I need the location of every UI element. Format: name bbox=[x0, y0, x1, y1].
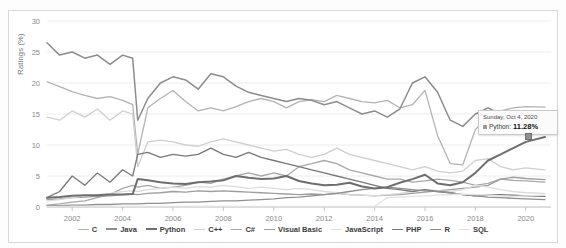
legend-swatch-icon bbox=[392, 229, 403, 230]
legend-swatch-icon bbox=[331, 229, 342, 230]
legend-label: Python bbox=[160, 225, 185, 234]
tooltip-value-row: Python: 11.28% bbox=[483, 122, 553, 131]
chart-screenshot: Ratings (%) 051015202530 200220042006200… bbox=[0, 0, 566, 248]
legend-item-c[interactable]: C bbox=[78, 225, 97, 234]
legend-item-php[interactable]: PHP bbox=[392, 225, 421, 234]
legend-swatch-icon bbox=[146, 228, 157, 230]
legend-item-python[interactable]: Python bbox=[146, 225, 185, 234]
tooltip-series-dot-icon bbox=[483, 125, 487, 129]
svg-text:5: 5 bbox=[36, 172, 40, 181]
legend-item-javascript[interactable]: JavaScript bbox=[331, 225, 383, 234]
svg-text:25: 25 bbox=[32, 48, 40, 57]
svg-text:10: 10 bbox=[32, 141, 40, 150]
chart-legend: CJavaPythonC++C#Visual BasicJavaScriptPH… bbox=[8, 221, 558, 237]
legend-label: C# bbox=[245, 225, 255, 234]
legend-swatch-icon bbox=[430, 229, 441, 230]
svg-text:0: 0 bbox=[36, 203, 40, 212]
legend-swatch-icon bbox=[231, 229, 242, 230]
legend-label: SQL bbox=[473, 225, 488, 234]
legend-label: Visual Basic bbox=[278, 225, 322, 234]
legend-item-visual-basic[interactable]: Visual Basic bbox=[264, 225, 322, 234]
legend-label: PHP bbox=[406, 225, 421, 234]
legend-item-r[interactable]: R bbox=[430, 225, 449, 234]
legend-swatch-icon bbox=[459, 229, 470, 230]
legend-swatch-icon bbox=[264, 229, 275, 230]
tooltip-series-value: 11.28% bbox=[513, 122, 538, 131]
legend-item-sql[interactable]: SQL bbox=[459, 225, 488, 234]
y-axis-ticks: 051015202530 bbox=[32, 17, 40, 212]
legend-swatch-icon bbox=[194, 229, 205, 230]
legend-label: R bbox=[444, 225, 449, 234]
highlighted-data-point-marker[interactable] bbox=[525, 133, 532, 140]
legend-item-c-[interactable]: C# bbox=[231, 225, 255, 234]
legend-label: JavaScript bbox=[345, 225, 383, 234]
svg-text:30: 30 bbox=[32, 17, 40, 26]
legend-swatch-icon bbox=[106, 228, 117, 230]
legend-swatch-icon bbox=[78, 229, 89, 230]
svg-text:20: 20 bbox=[32, 79, 40, 88]
tooltip-date: Sunday, Oct 4, 2020 bbox=[483, 113, 553, 121]
svg-text:15: 15 bbox=[32, 110, 40, 119]
series-lines bbox=[47, 43, 545, 207]
legend-label: Java bbox=[120, 225, 137, 234]
legend-item-java[interactable]: Java bbox=[106, 225, 137, 234]
chart-tooltip: Sunday, Oct 4, 2020 Python: 11.28% bbox=[478, 110, 558, 135]
chart-frame: Ratings (%) 051015202530 200220042006200… bbox=[8, 10, 558, 243]
plot-area: 051015202530 200220042006200820102012201… bbox=[9, 11, 559, 244]
legend-item-c-[interactable]: C++ bbox=[194, 225, 222, 234]
legend-label: C bbox=[92, 225, 97, 234]
line-chart-svg: 051015202530 200220042006200820102012201… bbox=[9, 11, 559, 244]
legend-label: C++ bbox=[208, 225, 222, 234]
tooltip-series-name: Python: bbox=[489, 122, 511, 131]
